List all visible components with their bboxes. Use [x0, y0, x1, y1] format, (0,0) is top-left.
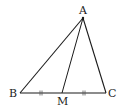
- label-b: B: [9, 87, 17, 100]
- label-m: M: [57, 95, 68, 108]
- side-ac: [83, 18, 106, 93]
- median-am: [62, 18, 83, 93]
- diagram-svg: A B C M: [0, 0, 122, 110]
- side-ab: [20, 18, 83, 93]
- triangle-diagram: A B C M: [0, 0, 122, 110]
- label-a: A: [78, 4, 88, 17]
- label-c: C: [108, 87, 116, 100]
- vertex-a-dot: [82, 17, 84, 19]
